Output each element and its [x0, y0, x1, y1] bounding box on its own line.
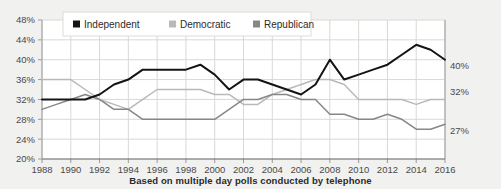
- x-axis-tick-label: 2010: [348, 164, 369, 175]
- x-axis-tick-label: 2014: [406, 164, 427, 175]
- end-value-label-republican: 27%: [450, 125, 470, 136]
- legend-marker-republican: [253, 21, 260, 28]
- legend-label-democratic: Democratic: [180, 19, 231, 30]
- x-axis-tick-label: 2012: [377, 164, 398, 175]
- y-axis-tick-label: 24%: [16, 134, 36, 145]
- legend-label-republican: Republican: [264, 19, 314, 30]
- y-axis-tick-label: 36%: [16, 74, 36, 85]
- y-axis-tick-label: 32%: [16, 94, 36, 105]
- y-axis-tick-label: 44%: [16, 34, 36, 45]
- x-axis-tick-label: 2004: [262, 164, 283, 175]
- x-axis-tick-label: 1998: [175, 164, 196, 175]
- y-axis-tick-label: 20%: [16, 153, 36, 164]
- x-axis-tick-label: 1992: [89, 164, 110, 175]
- chart-caption: Based on multiple day polls conducted by…: [0, 175, 501, 186]
- y-axis-tick-label: 48%: [16, 14, 36, 25]
- legend-marker-independent: [73, 21, 80, 28]
- end-value-label-independent: 40%: [450, 60, 470, 71]
- x-axis-tick-label: 2000: [204, 164, 225, 175]
- y-axis-tick-label: 40%: [16, 54, 36, 65]
- legend-label-independent: Independent: [84, 19, 140, 30]
- x-axis-tick-label: 1996: [147, 164, 168, 175]
- y-axis-tick-label: 28%: [16, 114, 36, 125]
- party-affiliation-line-chart: 48%44%40%36%32%28%24%20%1988199019921994…: [0, 0, 501, 189]
- legend-marker-democratic: [169, 21, 176, 28]
- x-axis-tick-label: 1994: [118, 164, 139, 175]
- x-axis-tick-label: 2002: [233, 164, 254, 175]
- x-axis-tick-label: 2016: [434, 164, 455, 175]
- x-axis-tick-label: 1990: [60, 164, 81, 175]
- x-axis-tick-label: 2008: [319, 164, 340, 175]
- x-axis-tick-label: 2006: [291, 164, 312, 175]
- x-axis-tick-label: 1988: [31, 164, 52, 175]
- chart-canvas: 48%44%40%36%32%28%24%20%1988199019921994…: [0, 0, 501, 189]
- end-value-label-democratic: 32%: [450, 86, 470, 97]
